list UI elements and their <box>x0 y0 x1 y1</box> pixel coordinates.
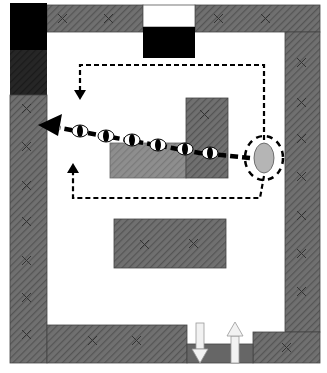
upper-dashed-path <box>74 65 264 140</box>
floor-plan <box>0 0 327 373</box>
eye-icon <box>150 139 166 151</box>
center-block <box>114 219 226 268</box>
oval-figure <box>245 136 283 180</box>
top-right-wall <box>195 5 320 32</box>
eye-icon <box>72 125 88 137</box>
top-door <box>143 5 195 58</box>
eye-icon <box>177 143 193 155</box>
eye-icon <box>124 134 140 146</box>
bottom-door <box>187 322 253 363</box>
bottom-left-wall <box>47 325 187 363</box>
right-wall <box>285 32 320 332</box>
left-wall <box>10 3 47 363</box>
eye-icon <box>202 147 218 159</box>
top-left-wall <box>47 5 143 32</box>
upper-right-block <box>186 98 228 178</box>
bottom-right-corner <box>253 332 320 363</box>
eye-icon <box>98 130 114 142</box>
